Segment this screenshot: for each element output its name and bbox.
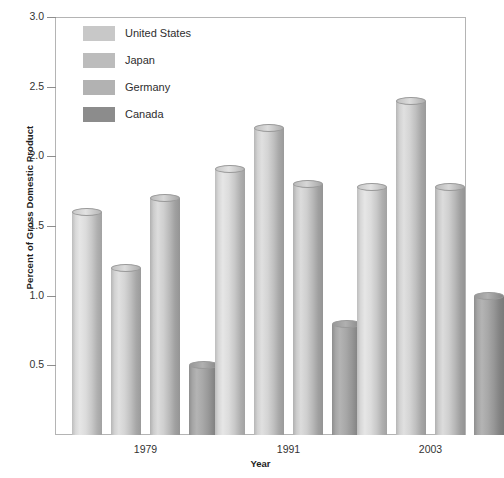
bar-body: [435, 187, 465, 435]
x-group-label: 1991: [229, 443, 349, 455]
y-tick: [47, 17, 56, 18]
y-tick: [47, 296, 56, 297]
x-axis-title: Year: [55, 458, 466, 469]
bar-body: [72, 212, 102, 435]
bar: [357, 183, 387, 435]
legend-swatch: [83, 26, 115, 41]
y-axis-title: Percent of Gross Domestic Product: [24, 93, 35, 323]
legend-swatch: [83, 53, 115, 68]
legend-item: Germany: [83, 76, 243, 98]
legend-label: United States: [125, 27, 191, 39]
bar-body: [293, 184, 323, 435]
y-tick: [47, 226, 56, 227]
bar: [215, 165, 245, 435]
bar-cap-ellipse: [357, 183, 387, 191]
bar: [254, 124, 284, 435]
bar-cap-ellipse: [215, 165, 245, 173]
y-tick: [47, 87, 56, 88]
bar: [396, 97, 426, 435]
bar: [72, 208, 102, 435]
bar-cap-ellipse: [474, 292, 504, 300]
legend: United StatesJapanGermanyCanada: [83, 22, 243, 130]
legend-label: Japan: [125, 54, 155, 66]
legend-item: Japan: [83, 49, 243, 71]
bar-body: [396, 101, 426, 435]
legend-swatch: [83, 107, 115, 122]
y-tick-label: 2.5: [4, 81, 44, 92]
legend-label: Germany: [125, 81, 170, 93]
y-tick-label: 1.0: [4, 290, 44, 301]
bar-cap-ellipse: [396, 97, 426, 105]
legend-item: United States: [83, 22, 243, 44]
bar: [150, 194, 180, 435]
y-tick: [47, 156, 56, 157]
bar: [293, 180, 323, 435]
y-tick-label: 0.5: [4, 359, 44, 370]
bar: [474, 292, 504, 435]
bar: [435, 183, 465, 435]
legend-label: Canada: [125, 108, 164, 120]
bar-body: [111, 268, 141, 435]
x-group-label: 1979: [86, 443, 206, 455]
bar-body: [357, 187, 387, 435]
bar-body: [254, 128, 284, 435]
bar-body: [474, 296, 504, 435]
y-tick: [47, 365, 56, 366]
bar-body: [150, 198, 180, 435]
bar-cap-ellipse: [111, 264, 141, 272]
y-tick-label: 2.0: [4, 150, 44, 161]
legend-item: Canada: [83, 103, 243, 125]
x-group-label: 2003: [371, 443, 491, 455]
y-tick-label: 1.5: [4, 220, 44, 231]
y-tick-label: 3.0: [4, 11, 44, 22]
bar-body: [215, 169, 245, 435]
bar: [111, 264, 141, 435]
legend-swatch: [83, 80, 115, 95]
bar-cap-ellipse: [435, 183, 465, 191]
